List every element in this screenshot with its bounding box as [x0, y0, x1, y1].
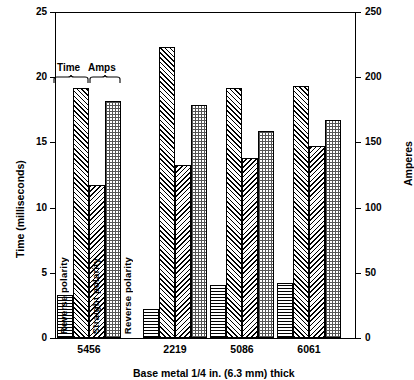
bar-6061-horizontal-lines [277, 283, 293, 338]
bar-caption-0: Reverse polarity [58, 257, 69, 334]
right-tick-label: 250 [365, 6, 382, 17]
right-axis-title: Amperes [402, 141, 414, 186]
bar-6061-diagonal-right [293, 86, 309, 338]
bar-2219-horizontal-lines [143, 309, 159, 338]
right-tick-label: 200 [365, 71, 382, 82]
right-axis-line [355, 12, 356, 339]
bar-5086-diagonal-right [226, 88, 242, 338]
left-tick-label: 10 [36, 202, 47, 213]
right-tick [356, 273, 361, 274]
x-axis-title: Base metal 1/4 in. (6.3 mm) thick [133, 367, 295, 379]
bar-5456-dots [105, 101, 121, 338]
right-tick [356, 12, 361, 13]
left-tick-label: 20 [36, 71, 47, 82]
bar-5086-diagonal-left [242, 158, 258, 338]
left-tick-label: 0 [41, 332, 47, 343]
right-tick-label: 0 [365, 332, 371, 343]
plot-area: Reverse polarityStraight polarityReverse… [55, 12, 355, 338]
bar-caption-2: Reverse polarity [122, 257, 133, 334]
right-tick-label: 150 [365, 136, 382, 147]
bottom-axis-line [55, 338, 356, 339]
bar-caption-1: Straight polarity [90, 258, 101, 334]
bar-6061-dots [325, 120, 341, 338]
category-label-5456: 5456 [54, 343, 124, 355]
left-tick-label: 5 [41, 267, 47, 278]
bar-5086-horizontal-lines [210, 285, 226, 338]
bar-2219-diagonal-right [159, 47, 175, 338]
category-label-6061: 6061 [274, 343, 344, 355]
bar-5456-diagonal-right [73, 88, 89, 338]
right-tick-label: 100 [365, 202, 382, 213]
bar-6061-diagonal-left [309, 146, 325, 338]
left-tick-label: 15 [36, 136, 47, 147]
legend-brace-amps [89, 74, 121, 83]
right-tick [356, 208, 361, 209]
right-tick [356, 77, 361, 78]
right-tick [356, 142, 361, 143]
legend-brace-time [53, 74, 89, 83]
bar-2219-dots [191, 105, 207, 338]
right-tick-label: 50 [365, 267, 376, 278]
category-label-2219: 2219 [140, 343, 210, 355]
legend-label-time: Time [57, 62, 80, 73]
category-label-5086: 5086 [207, 343, 277, 355]
left-tick-label: 25 [36, 6, 47, 17]
legend-label-amps: Amps [88, 62, 116, 73]
left-axis-title: Time (milliseconds) [14, 160, 26, 258]
right-tick [356, 338, 361, 339]
bar-5086-dots [258, 131, 274, 338]
bar-2219-diagonal-left [175, 165, 191, 338]
